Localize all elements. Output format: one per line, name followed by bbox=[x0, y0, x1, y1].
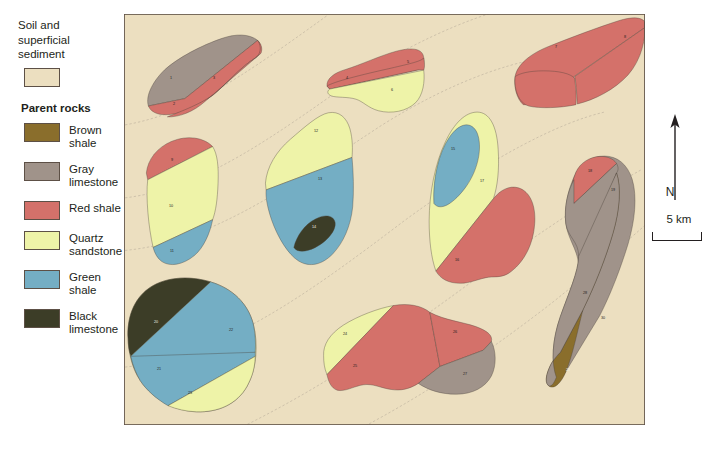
north-label: N bbox=[655, 185, 685, 199]
scale-bar bbox=[652, 232, 702, 241]
legend-soil-title: Soil and superficial sediment bbox=[18, 18, 122, 62]
unit-label-7: 7 bbox=[555, 45, 557, 49]
legend-label-black-limestone: Black limestone bbox=[69, 309, 118, 337]
unit-label-10: 10 bbox=[169, 204, 173, 208]
legend-label-red-shale: Red shale bbox=[69, 201, 121, 216]
geologic-map-figure: Soil and superficial sediment Parent roc… bbox=[0, 0, 708, 449]
legend-label-green-shale: Green shale bbox=[69, 270, 122, 298]
unit-label-3: 3 bbox=[213, 76, 215, 80]
legend-swatch-black-limestone bbox=[24, 309, 60, 328]
legend-label-quartz-sandstone: Quartz sandstone bbox=[69, 231, 122, 259]
unit-label-27: 27 bbox=[463, 372, 467, 376]
unit-label-2: 2 bbox=[173, 102, 175, 106]
unit-label-28: 28 bbox=[583, 291, 587, 295]
unit-label-17: 17 bbox=[480, 179, 484, 183]
unit-label-15: 15 bbox=[451, 147, 455, 151]
legend-swatch-gray-limestone bbox=[24, 162, 60, 181]
legend-item-brown-shale: Brown shale bbox=[24, 123, 122, 151]
unit-label-23: 23 bbox=[188, 391, 192, 395]
map-svg: 1234567891011121314151617181920212223242… bbox=[124, 14, 645, 425]
legend-parent-rocks-heading: Parent rocks bbox=[21, 102, 122, 114]
legend-swatch-brown-shale bbox=[24, 123, 60, 142]
unit-label-22: 22 bbox=[229, 328, 233, 332]
unit-label-8: 8 bbox=[624, 35, 626, 39]
unit-label-12: 12 bbox=[314, 129, 318, 133]
legend-label-brown-shale: Brown shale bbox=[69, 123, 122, 151]
unit-label-18: 18 bbox=[588, 169, 592, 173]
unit-polygon-7-sandstone[interactable] bbox=[515, 71, 576, 108]
unit-label-14: 14 bbox=[312, 225, 316, 229]
unit-label-9: 9 bbox=[171, 158, 173, 162]
legend-swatch-quartz-sandstone bbox=[24, 231, 60, 250]
unit-label-6: 6 bbox=[391, 88, 393, 92]
legend-label-gray-limestone: Gray limestone bbox=[69, 162, 118, 190]
unit-label-30: 30 bbox=[601, 316, 605, 320]
unit-label-16: 16 bbox=[455, 258, 459, 262]
legend-swatch-red-shale bbox=[24, 201, 60, 220]
legend-swatch-soil bbox=[24, 68, 60, 87]
unit-label-25: 25 bbox=[353, 364, 357, 368]
unit-label-26: 26 bbox=[453, 330, 457, 334]
legend-item-quartz-sandstone: Quartz sandstone bbox=[24, 231, 122, 259]
unit-label-24: 24 bbox=[343, 332, 347, 336]
unit-label-13: 13 bbox=[318, 177, 322, 181]
unit-label-11: 11 bbox=[170, 249, 174, 253]
unit-label-21: 21 bbox=[157, 367, 161, 371]
unit-label-5: 5 bbox=[407, 60, 409, 64]
unit-label-19: 19 bbox=[611, 188, 615, 192]
map-panel: 1234567891011121314151617181920212223242… bbox=[124, 14, 645, 425]
unit-label-4: 4 bbox=[346, 76, 348, 80]
legend-item-gray-limestone: Gray limestone bbox=[24, 162, 122, 190]
legend-item-black-limestone: Black limestone bbox=[24, 309, 122, 337]
scale-bar-label: 5 km bbox=[650, 213, 708, 225]
unit-label-20: 20 bbox=[154, 320, 158, 324]
unit-label-29: 29 bbox=[566, 368, 570, 372]
legend-item-green-shale: Green shale bbox=[24, 270, 122, 298]
legend-swatch-green-shale bbox=[24, 270, 60, 289]
map-legend: Soil and superficial sediment Parent roc… bbox=[18, 18, 122, 348]
unit-label-1: 1 bbox=[170, 76, 172, 80]
legend-item-red-shale: Red shale bbox=[24, 201, 122, 220]
